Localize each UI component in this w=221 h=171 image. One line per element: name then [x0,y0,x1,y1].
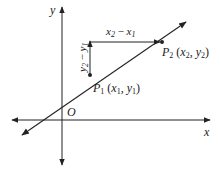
x-axis-label: x [203,125,210,139]
p1-label: P1 (x1, y1) [92,81,140,96]
point-p2 [160,40,164,44]
run-label: x2 − x1 [105,25,136,39]
y-axis-label: y [49,3,56,17]
slope-diagram: y x O x2 − x1 y2 − y1 P1 (x1, y1) P2 (x2… [0,0,221,171]
diagram-canvas: y x O x2 − x1 y2 − y1 P1 (x1, y1) P2 (x2… [0,0,221,171]
origin-label: O [67,105,76,119]
p2-label: P2 (x2, y2) [161,45,209,60]
rise-label: y2 − y1 [76,43,90,74]
line-through-points [22,22,186,135]
point-p1 [88,73,92,77]
